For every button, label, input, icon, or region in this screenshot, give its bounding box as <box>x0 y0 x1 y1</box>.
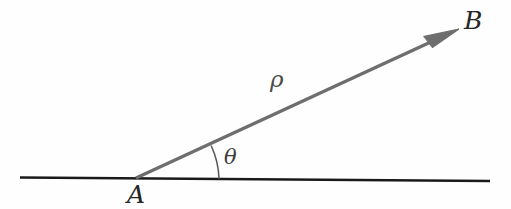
baseline-horizontal <box>20 178 490 182</box>
vector-ray-shaft <box>136 41 434 179</box>
diagram-canvas <box>0 0 511 209</box>
point-label-b: B <box>464 8 482 33</box>
angle-label-theta: θ <box>224 147 237 168</box>
angle-arc <box>211 146 219 178</box>
point-label-a: A <box>127 182 145 207</box>
geometry-figure: A B θ ρ <box>0 0 511 209</box>
magnitude-label-rho: ρ <box>270 68 284 91</box>
vector-arrowhead <box>424 29 459 48</box>
